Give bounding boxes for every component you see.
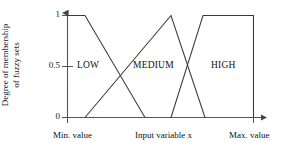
set-label-medium: MEDIUM [133, 61, 174, 71]
y-axis-label: Degree of membership of fuzzy sets [0, 6, 30, 124]
x-axis-label-center: Input variable x [135, 131, 192, 140]
y-tick-label-0point5: 0.5 [36, 61, 60, 70]
x-tick-label-min: Min. value [53, 131, 92, 140]
x-tick-label-max: Max. value [229, 131, 270, 140]
y-tick-label-0: 0 [44, 112, 60, 121]
y-axis-label-line1: Degree of membership [0, 6, 11, 124]
y-tick-label-1: 1 [44, 10, 60, 19]
set-label-low: LOW [77, 61, 99, 71]
membership-plot-svg [0, 0, 284, 148]
set-label-high: HIGH [211, 61, 236, 71]
y-axis-label-line2: of fuzzy sets [11, 6, 22, 124]
fuzzy-membership-figure: Degree of membership of fuzzy sets 1 0.5… [0, 0, 284, 148]
